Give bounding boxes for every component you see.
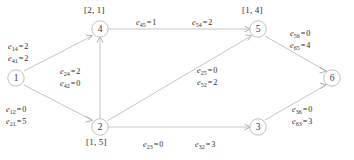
edge-weight-e36: e36=0 <box>292 104 312 116</box>
edge-label-e45: e45=1 <box>136 17 156 29</box>
graph-diagram: 1 2 3 4 5 6 [2, 1] [1, 4] [1, 5] e14=2e4… <box>0 0 354 160</box>
edge-weight-e25: e25=0 <box>197 65 217 77</box>
bracket-label-node-2: [1, 5] <box>86 137 107 147</box>
edge-weight-e54: e54=2 <box>192 17 212 29</box>
edge-weight-e21: e21=5 <box>6 116 26 128</box>
node-label-5: 5 <box>248 24 268 34</box>
edge-2-5 <box>107 36 251 121</box>
edge-weight-e23: e23=0 <box>143 139 163 151</box>
edge-label-e36-e63: e36=0e63=3 <box>292 104 312 128</box>
edge-weight-e56: e56=0 <box>290 28 310 40</box>
edge-weight-e41: e41=2 <box>8 53 28 65</box>
arrow-head-3-6 <box>320 83 327 88</box>
node-label-6: 6 <box>322 73 342 83</box>
edge-weight-e24: e24=2 <box>60 66 80 78</box>
edge-label-e14-e41: e14=2e41=2 <box>8 41 28 65</box>
edge-label-e12-e21: e12=0e21=5 <box>6 104 26 128</box>
bracket-label-node-4: [2, 1] <box>84 5 105 15</box>
edge-label-e24-e42: e24=2e42=0 <box>60 66 80 90</box>
bracket-label-node-5: [1, 4] <box>242 5 263 15</box>
edge-weight-e32: e32=3 <box>195 139 215 151</box>
edge-1-4 <box>24 36 92 71</box>
edge-weight-e52: e52=2 <box>197 77 217 89</box>
edge-weight-e63: e63=3 <box>292 116 312 128</box>
edge-label-e56-e65: e56=0e65=4 <box>290 28 310 52</box>
node-label-2: 2 <box>90 122 110 132</box>
node-label-4: 4 <box>90 24 110 34</box>
node-label-1: 1 <box>6 73 26 83</box>
edge-weight-e12: e12=0 <box>6 104 26 116</box>
node-label-3: 3 <box>248 122 268 132</box>
edge-1-2 <box>24 85 92 120</box>
edge-label-e25-e52: e25=0e52=2 <box>197 65 217 89</box>
edge-label-e23: e23=0 <box>143 139 163 151</box>
edge-weight-e14: e14=2 <box>8 41 28 53</box>
edge-weight-e65: e65=4 <box>290 40 310 52</box>
edge-label-e54: e54=2 <box>192 17 212 29</box>
edge-weight-e42: e42=0 <box>60 78 80 90</box>
graph-canvas <box>0 0 354 160</box>
edge-weight-e45: e45=1 <box>136 17 156 29</box>
edge-label-e32: e32=3 <box>195 139 215 151</box>
